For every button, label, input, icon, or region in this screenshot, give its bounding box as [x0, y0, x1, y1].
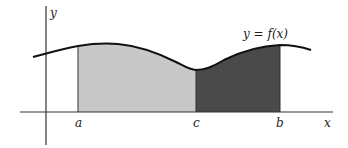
region-c-to-b — [196, 45, 280, 112]
point-label-c: c — [193, 116, 200, 130]
point-label-b: b — [276, 116, 284, 130]
region-a-to-c — [78, 44, 196, 112]
integral-diagram: y x a c b y = f(x) — [0, 0, 348, 148]
y-axis-label: y — [49, 6, 57, 20]
x-axis-label: x — [324, 116, 331, 130]
diagram-svg: y x a c b y = f(x) — [0, 0, 348, 148]
point-label-a: a — [75, 116, 82, 130]
curve-label: y = f(x) — [242, 27, 288, 41]
